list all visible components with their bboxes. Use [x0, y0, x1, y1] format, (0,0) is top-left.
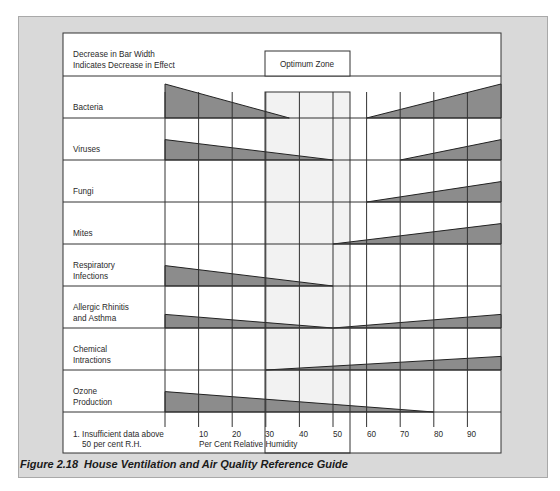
legend-line-2: Indicates Decrease in Effect	[73, 61, 176, 70]
optimum-zone-label: Optimum Zone	[280, 60, 335, 69]
tick-40: 40	[299, 430, 309, 439]
row-label-chemical-1: Chemical	[73, 345, 107, 354]
row-label-allergic-2: and Asthma	[73, 314, 117, 323]
row-label-respiratory-2: Infections	[73, 272, 108, 281]
row-label-allergic-1: Allergic Rhinitis	[73, 303, 129, 312]
tick-60: 60	[367, 430, 377, 439]
row-label-chemical-2: Intractions	[73, 356, 111, 365]
footnote-line-2: 50 per cent R.H.	[82, 440, 142, 449]
optimum-zone-shading	[265, 92, 350, 412]
tick-10: 10	[199, 430, 209, 439]
x-axis-ticks: 10 20 30 40 50 60 70 80 90	[199, 430, 477, 439]
row-label-viruses: Viruses	[73, 145, 100, 154]
row-label-respiratory-1: Respiratory	[73, 261, 116, 270]
tick-30: 30	[265, 430, 275, 439]
row-label-ozone-1: Ozone	[73, 387, 98, 396]
row-label-fungi: Fungi	[73, 187, 94, 196]
legend-line-1: Decrease in Bar Width	[73, 50, 155, 59]
tick-20: 20	[232, 430, 242, 439]
x-axis-label: Per Cent Relative Humidity	[199, 440, 298, 449]
tick-90: 90	[467, 430, 477, 439]
footnote-line-1: 1. Insufficient data above	[73, 430, 164, 439]
tick-80: 80	[434, 430, 444, 439]
tick-70: 70	[400, 430, 410, 439]
figure-caption: Figure 2.18House Ventilation and Air Qua…	[20, 458, 354, 470]
row-label-mites: Mites	[73, 229, 93, 238]
row-label-bacteria: Bacteria	[73, 103, 103, 112]
tick-50: 50	[333, 430, 343, 439]
humidity-chart: Optimum Zone Decrease in Bar Width Indic…	[0, 0, 560, 491]
figure-title: House Ventilation and Air Quality Refere…	[84, 458, 348, 470]
row-label-ozone-2: Production	[73, 398, 113, 407]
figure-number: Figure 2.18	[20, 458, 78, 470]
